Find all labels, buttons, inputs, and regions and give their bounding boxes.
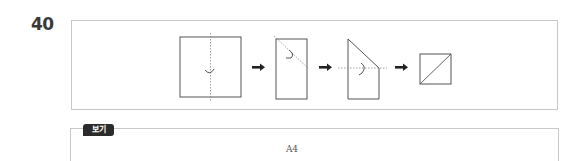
- folding-diagram: [72, 21, 559, 111]
- step-3-folded-shape: [338, 39, 387, 99]
- figure-box: [71, 20, 558, 110]
- step-4-result-square: [420, 54, 451, 84]
- step-2-rectangle: [274, 36, 309, 99]
- bogi-label: 보기: [83, 124, 114, 136]
- step-1-square: [180, 33, 241, 101]
- bogi-content: A4: [0, 144, 584, 154]
- right-arrow-icon: [252, 64, 265, 72]
- right-arrow-icon: [395, 64, 408, 72]
- question-number: 40: [31, 14, 54, 34]
- right-arrow-icon: [319, 64, 332, 72]
